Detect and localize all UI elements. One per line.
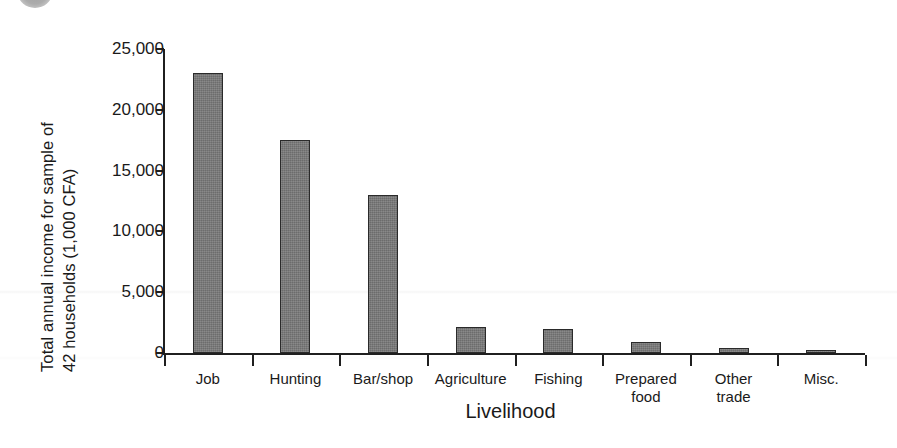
y-axis-tick-label: 15,000	[74, 161, 164, 181]
x-axis-tick	[602, 355, 604, 366]
plot-area: 05,00010,00015,00020,00025,000JobHunting…	[0, 0, 897, 448]
x-axis-tick	[690, 355, 692, 366]
bar-prepared-food	[631, 342, 661, 353]
x-axis-tick	[339, 355, 341, 366]
bar-job	[193, 73, 223, 353]
y-axis-tick-label: 25,000	[74, 39, 164, 59]
x-axis-title-text: Livelihood	[465, 400, 555, 422]
x-axis-tick	[164, 355, 166, 366]
bar-bar-shop	[368, 195, 398, 353]
y-axis-tick-label: 10,000	[74, 221, 164, 241]
bar-fishing	[543, 329, 573, 353]
y-axis-tick-label: 20,000	[74, 100, 164, 120]
y-axis-tick-label: 5,000	[74, 282, 164, 302]
x-axis-tick	[427, 355, 429, 366]
x-axis-category-label: Misc.	[766, 370, 876, 388]
y-axis-line	[163, 49, 165, 354]
x-axis-tick	[865, 355, 867, 366]
x-axis-category-label-line: Misc.	[766, 370, 876, 388]
bar-hunting	[280, 140, 310, 353]
x-axis-tick	[777, 355, 779, 366]
y-axis-tick-label: 0	[74, 343, 164, 363]
figure-root: Total annual income for sample of 42 hou…	[0, 0, 897, 448]
bar-misc	[806, 350, 836, 353]
bar-agriculture	[456, 327, 486, 353]
x-axis-title: Livelihood	[0, 400, 897, 423]
x-axis-tick	[252, 355, 254, 366]
x-axis-tick	[515, 355, 517, 366]
bar-other-trade	[719, 348, 749, 353]
